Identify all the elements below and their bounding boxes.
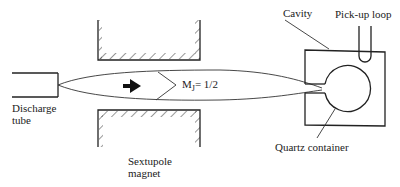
sextupole-magnet-bottom [98,110,200,147]
discharge-tube-label-line2: tube [12,114,56,126]
discharge-tube-label-line1: Discharge [12,102,56,114]
sextupole-label-line1: Sextupole [128,155,172,167]
hydrogen-maser-diagram: Discharge tube Sextupole magnet MJ= 1/2 … [0,0,400,187]
quartz-container [325,66,371,112]
sextupole-magnet-label: Sextupole magnet [128,155,172,179]
sextupole-magnet-top [98,20,200,60]
sextupole-label-line2: magnet [128,167,172,179]
quartz-container-label: Quartz container [275,141,349,153]
state-label: MJ= 1/2 [182,78,218,93]
discharge-tube [12,73,58,97]
pick-up-loop [359,26,371,62]
beam-direction-arrow-icon [123,79,141,93]
discharge-tube-label: Discharge tube [12,102,56,126]
pick-up-loop-label: Pick-up loop [335,8,392,20]
diagram-canvas [0,0,400,187]
cavity-label: Cavity [283,7,312,19]
state-value: = 1/2 [195,78,218,90]
state-symbol: M [182,78,192,90]
